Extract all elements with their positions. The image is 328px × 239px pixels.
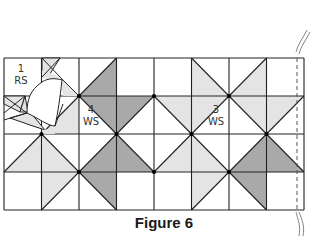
block-1-number: 1 (10, 63, 32, 75)
block-3-label: 3 WS (205, 104, 227, 128)
vertex-dot (227, 170, 231, 174)
vertex-dot (115, 132, 119, 136)
block-3-number: 3 (205, 104, 227, 116)
vertex-dot (77, 94, 81, 98)
vertex-dot (77, 170, 81, 174)
figure-caption: Figure 6 (0, 214, 328, 231)
vertex-dot (227, 94, 231, 98)
vertex-dot (152, 170, 156, 174)
vertex-dot (152, 94, 156, 98)
block-1-label: 1 RS (10, 63, 32, 87)
block-4-label: 4 WS (80, 104, 102, 128)
torn-edge-top-icon (296, 30, 310, 54)
vertex-dot (265, 132, 269, 136)
quilt-figure (0, 0, 328, 239)
block-3-side: WS (205, 116, 227, 128)
vertex-dot (190, 132, 194, 136)
vertex-dot (40, 132, 44, 136)
block-4-side: WS (80, 116, 102, 128)
block-1-side: RS (10, 75, 32, 87)
block-4-number: 4 (80, 104, 102, 116)
